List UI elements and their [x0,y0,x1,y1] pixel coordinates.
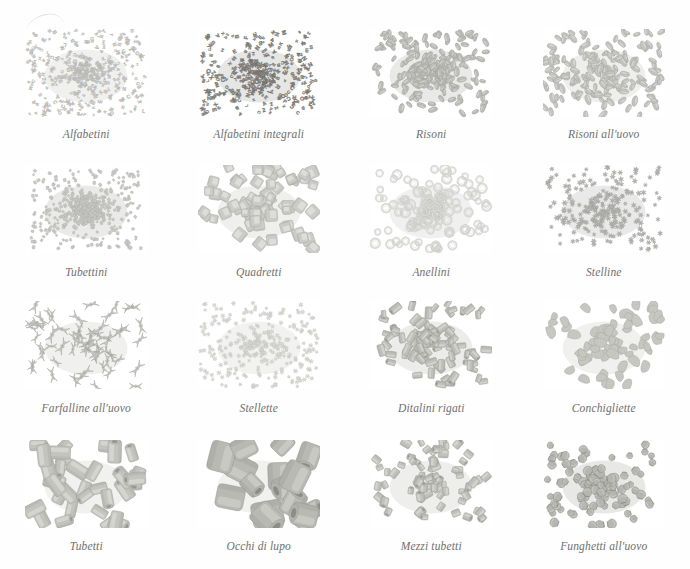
pasta-cell-risoni-alluovo: Risoni all'uovo [518,0,690,151]
pasta-photo-risoni [370,29,492,117]
pasta-caption-stelline: Stelline [586,266,622,279]
pasta-caption-funghetti-alluovo: Funghetti all'uovo [560,540,647,553]
pasta-photo-occhi-di-lupo [198,440,320,528]
svg-text:S: S [309,44,313,50]
pasta-caption-quadretti: Quadretti [236,266,282,279]
pasta-photo-farfalline-alluovo [25,301,147,389]
svg-text:A: A [33,111,38,114]
pasta-photo-mezzi-tubetti [370,440,492,528]
pasta-caption-tubettini: Tubettini [65,266,107,279]
pasta-photo-stelline [543,165,665,253]
pasta-caption-mezzi-tubetti: Mezzi tubetti [401,540,462,553]
pasta-cell-stellette: Stellette [173,287,346,423]
pasta-cell-tubetti: Tubetti [0,423,173,569]
pasta-photo-conchigliette [543,301,665,389]
pasta-photo-quadretti [198,165,320,253]
pasta-cell-stelline: Stelline [518,151,690,287]
pasta-photo-alfabetini-integrali: KRBROBRCCMR4MAFA8ACBMKT4BCSESPM4O2STCN2F… [198,29,320,117]
pasta-caption-occhi-di-lupo: Occhi di lupo [226,540,291,553]
pasta-caption-tubetti: Tubetti [70,540,103,553]
svg-text:E: E [208,53,213,57]
pasta-photo-tubettini [25,165,147,253]
pasta-cell-alfabetini-integrali: KRBROBRCCMR4MAFA8ACBMKT4BCSESPM4O2STCN2F… [173,0,346,151]
pasta-photo-alfabetini: NELK4FCRNSLBENEBSABCTP8BSKMMSACRZXFPENFR… [25,29,147,117]
pasta-photo-tubetti [25,440,147,528]
pasta-photo-stellette [198,301,320,389]
svg-text:2: 2 [93,113,95,117]
pasta-caption-risoni: Risoni [416,128,446,141]
pasta-cell-conchigliette: Conchigliette [518,287,690,423]
pasta-caption-alfabetini-integrali: Alfabetini integrali [213,128,304,141]
pasta-cell-alfabetini: NELK4FCRNSLBENEBSABCTP8BSKMMSACRZXFPENFR… [0,0,173,151]
pasta-cell-occhi-di-lupo: Occhi di lupo [173,423,346,569]
pasta-caption-stellette: Stellette [240,402,278,415]
pasta-photo-anellini [370,165,492,253]
pasta-cell-quadretti: Quadretti [173,151,346,287]
pasta-photo-funghetti-alluovo [543,440,665,528]
pasta-cell-funghetti-alluovo: Funghetti all'uovo [518,423,690,569]
pasta-cell-tubettini: Tubettini [0,151,173,287]
svg-text:A: A [100,99,103,104]
pasta-cell-farfalline-alluovo: Farfalline all'uovo [0,287,173,423]
svg-text:2: 2 [111,108,115,110]
pasta-caption-anellini: Anellini [412,266,450,279]
svg-text:P: P [129,110,133,113]
pasta-caption-conchigliette: Conchigliette [572,402,636,415]
pasta-cell-mezzi-tubetti: Mezzi tubetti [345,423,518,569]
pasta-photo-risoni-alluovo [543,29,665,117]
pasta-cell-anellini: Anellini [345,151,518,287]
pasta-cell-risoni: Risoni [345,0,518,151]
svg-text:B: B [233,34,239,39]
pasta-caption-risoni-alluovo: Risoni all'uovo [568,128,639,141]
pasta-cell-ditalini-rigati: Ditalini rigati [345,287,518,423]
pasta-grid: NELK4FCRNSLBENEBSABCTP8BSKMMSACRZXFPENFR… [0,0,690,569]
pasta-photo-ditalini-rigati [370,301,492,389]
pasta-caption-farfalline-alluovo: Farfalline all'uovo [42,402,131,415]
svg-text:E: E [77,111,80,116]
svg-text:2: 2 [78,109,82,111]
pasta-caption-ditalini-rigati: Ditalini rigati [398,402,464,415]
pasta-plate: NELK4FCRNSLBENEBSABCTP8BSKMMSACRZXFPENFR… [0,0,690,569]
pasta-caption-alfabetini: Alfabetini [63,128,110,141]
